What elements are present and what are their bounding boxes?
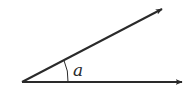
angle-arc [64,61,68,83]
angle-diagram: a [0,0,189,97]
upper-ray [22,9,162,82]
angle-label: a [73,60,83,80]
